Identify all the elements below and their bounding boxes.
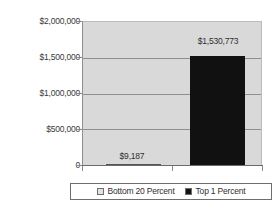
legend-swatch-icon-top-1-percent [185, 188, 192, 195]
legend-label-bottom-20-percent: Bottom 20 Percent [108, 187, 175, 196]
x-axis-tick-left [82, 166, 83, 171]
bar-top-1-percent[interactable] [190, 56, 245, 165]
y-axis-tick-label-1500000: $1,500,000 [2, 53, 80, 62]
y-axis-tick-label-500000: $500,000 [2, 125, 80, 134]
legend-swatch-icon-bottom-20-percent [97, 188, 104, 195]
y-axis-tick-label-1000000: $1,000,000 [2, 89, 80, 98]
legend: Bottom 20 Percent Top 1 Percent [70, 183, 272, 200]
data-label-bottom-20-percent: $9,187 [97, 152, 167, 161]
x-axis-tick-right [262, 166, 263, 171]
y-axis-tick-label-2000000: $2,000,000 [2, 17, 80, 26]
x-axis-tick-middle [172, 166, 173, 171]
data-label-top-1-percent: $1,530,773 [183, 37, 253, 46]
legend-entry-top-1-percent[interactable]: Top 1 Percent [185, 187, 246, 196]
legend-label-top-1-percent: Top 1 Percent [196, 187, 246, 196]
y-axis-tick-label-0: 0 [2, 161, 80, 170]
legend-entry-bottom-20-percent[interactable]: Bottom 20 Percent [97, 187, 175, 196]
bar-chart: $2,000,000 $1,500,000 $1,000,000 $500,00… [0, 0, 280, 210]
